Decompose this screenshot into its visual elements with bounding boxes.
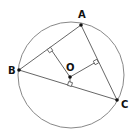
- point-C: [115, 98, 119, 102]
- right-angle-marker-AB: [47, 47, 53, 53]
- label-A: A: [78, 9, 86, 20]
- point-O: [68, 75, 72, 79]
- label-C: C: [121, 99, 128, 110]
- side-AC: [81, 25, 117, 100]
- label-B: B: [8, 65, 16, 76]
- label-O: O: [66, 62, 75, 73]
- circumcircle-diagram: A B C O: [0, 0, 140, 137]
- point-A: [79, 23, 83, 27]
- right-angle-marker-BC: [68, 82, 73, 87]
- point-B: [17, 68, 21, 72]
